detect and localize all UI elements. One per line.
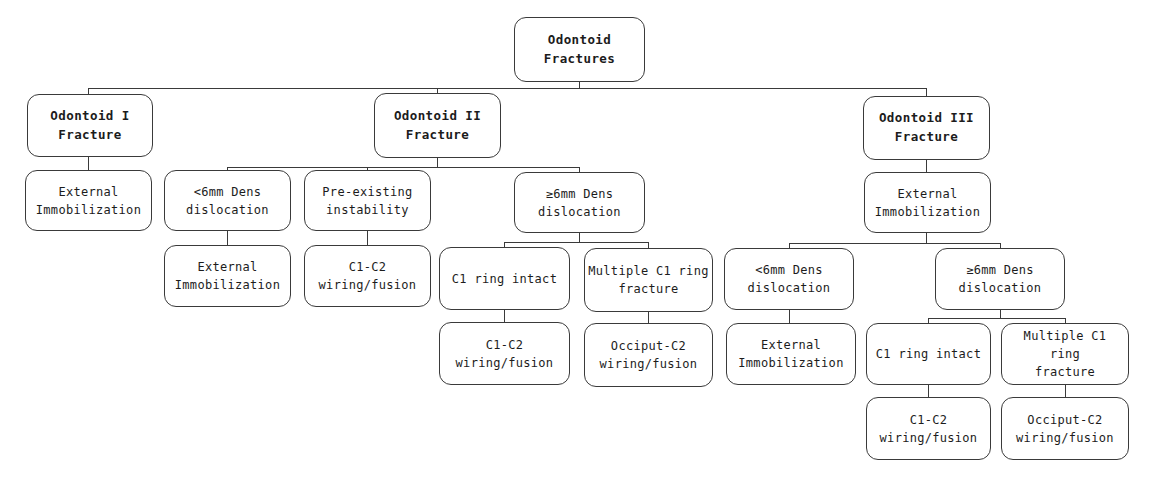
connector-line [789,243,1000,244]
connector-line [1000,310,1001,318]
connector-line [789,310,790,323]
node-odontoid-ii-fracture: Odontoid II Fracture [374,93,501,158]
connector-line [1065,385,1066,397]
node-iii-lt6mm-external-immobilization: External Immobilization [726,323,856,385]
node-iii-c1-ring-c1-c2-wiring-fusion: C1-C2 wiring/fusion [866,397,991,460]
node-iii-occiput-c2-wiring-fusion: Occiput-C2 wiring/fusion [1001,397,1129,460]
node-ii-multiple-c1-ring-fracture: Multiple C1 ring fracture [584,248,713,312]
node-odontoid-i-fracture: Odontoid I Fracture [27,94,153,157]
node-ii-lt6mm-dens-dislocation: <6mm Dens dislocation [164,170,291,231]
connector-line [88,157,89,170]
connector-line [926,160,927,172]
connector-line [926,233,927,243]
connector-line [928,385,929,397]
connector-line [367,231,368,245]
connector-line [88,88,926,89]
node-iii-ge6mm-dens-dislocation: ≥6mm Dens dislocation [935,248,1065,310]
connector-line [227,167,579,168]
node-ii-c1-ring-intact: C1 ring intact [439,247,570,310]
connector-line [437,158,438,167]
node-iii-c1-ring-intact: C1 ring intact [866,323,991,385]
node-odontoid-fractures: Odontoid Fractures [514,17,645,82]
connector-line [648,312,649,323]
node-iii-external-immobilization: External Immobilization [864,172,991,233]
connector-line [504,242,648,243]
node-iii-multiple-c1-ring-fracture: Multiple C1 ring fracture [1001,323,1129,385]
node-ii-preexisting-instability: Pre-existing instability [304,170,431,231]
connector-line [227,231,228,245]
connector-line [579,233,580,242]
node-ii-lt6mm-external-immobilization: External Immobilization [164,245,291,307]
node-ii-ge6mm-dens-dislocation: ≥6mm Dens dislocation [514,172,645,233]
connector-line [504,310,505,322]
odontoid-fractures-flowchart: Odontoid Fractures Odontoid I Fracture E… [0,0,1158,486]
node-iii-lt6mm-dens-dislocation: <6mm Dens dislocation [724,248,854,310]
node-odontoid-i-external-immobilization: External Immobilization [25,170,152,231]
connector-line [928,318,1065,319]
node-ii-preexisting-c1-c2-wiring-fusion: C1-C2 wiring/fusion [304,245,431,307]
node-ii-c1-ring-c1-c2-wiring-fusion: C1-C2 wiring/fusion [439,322,570,385]
node-ii-occiput-c2-wiring-fusion: Occiput-C2 wiring/fusion [584,323,713,387]
node-odontoid-iii-fracture: Odontoid III Fracture [863,96,990,160]
